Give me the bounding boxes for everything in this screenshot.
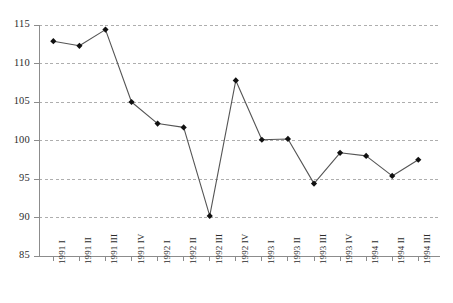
y-tick-label: 105: [4, 95, 30, 106]
data-point-marker: [102, 27, 108, 33]
x-tick-label: 1991 I: [57, 240, 67, 264]
x-tick-label: 1993 III: [318, 234, 328, 264]
data-point-marker: [285, 136, 291, 142]
x-tick-label: 1991 III: [109, 234, 119, 264]
x-tick-label: 1994 II: [396, 237, 406, 264]
x-tick-label: 1993 I: [266, 240, 276, 264]
x-tick-label: 1991 II: [83, 237, 93, 264]
y-tick-label: 95: [4, 172, 30, 183]
x-tick-label: 1994 I: [370, 240, 380, 264]
x-tick-label: 1992 IV: [240, 234, 250, 264]
data-point-marker: [50, 38, 56, 44]
chart-plot-area: [0, 0, 453, 303]
y-tick-label: 100: [4, 134, 30, 145]
x-tick-label: 1992 I: [162, 240, 172, 264]
data-point-marker: [259, 137, 265, 143]
x-tick-label: 1994 III: [422, 234, 432, 264]
x-tick-label: 1991 IV: [136, 234, 146, 264]
x-tick-label: 1992 III: [214, 234, 224, 264]
y-tick-label: 110: [4, 57, 30, 68]
y-tick-label: 85: [4, 249, 30, 260]
data-point-marker: [76, 43, 82, 49]
data-point-marker: [233, 77, 239, 83]
x-tick-label: 1993 II: [292, 237, 302, 264]
x-tick-label: 1992 II: [188, 237, 198, 264]
line-chart: 8590951001051101151991 I1991 II1991 III1…: [0, 0, 453, 303]
x-tick-label: 1993 IV: [344, 234, 354, 264]
y-tick-label: 90: [4, 211, 30, 222]
data-line: [53, 30, 418, 216]
data-point-marker: [415, 157, 421, 163]
y-tick-label: 115: [4, 18, 30, 29]
data-point-marker: [181, 124, 187, 130]
data-point-marker: [207, 213, 213, 219]
